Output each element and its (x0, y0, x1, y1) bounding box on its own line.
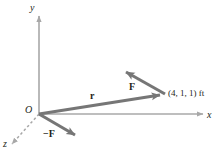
vector-F-label: F (129, 82, 135, 92)
vector-r-label: r (90, 91, 94, 101)
vector-diagram-figure: y x z O r F −F (4, 1, 1) ft (0, 0, 221, 154)
z-axis-label: z (3, 139, 7, 149)
y-axis-label: y (30, 3, 34, 13)
z-axis-line (12, 114, 39, 144)
origin-label: O (25, 105, 32, 115)
vector-negative-F-label: −F (43, 129, 55, 139)
diagram-canvas (0, 0, 221, 154)
x-axis-label: x (207, 110, 211, 120)
point-coordinate-label: (4, 1, 1) ft (168, 89, 204, 98)
vector-r-line (39, 95, 160, 114)
